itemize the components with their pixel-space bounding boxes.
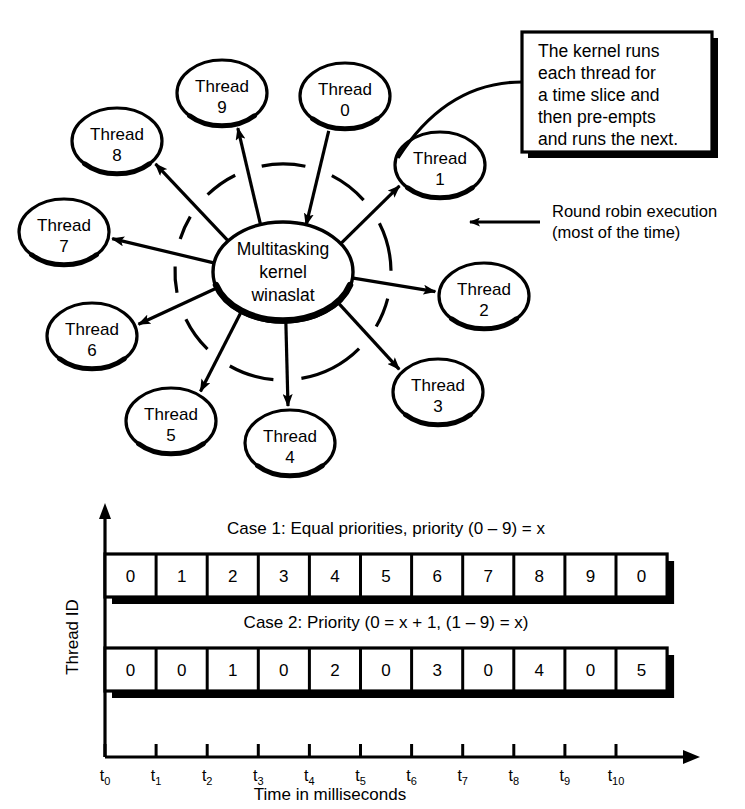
x-tick-label-3: t3: [253, 767, 264, 787]
cell-2-10[interactable]: 5: [637, 661, 646, 680]
thread-label-word-8: Thread: [90, 125, 144, 144]
cell-1-2[interactable]: 2: [228, 567, 237, 586]
thread-node-6[interactable]: Thread6: [47, 303, 137, 369]
thread-label-number-0: 0: [340, 101, 349, 120]
x-axis-arrowhead-icon: [683, 750, 700, 764]
ring-arc-segment: [332, 176, 364, 201]
ring-arc-segment: [180, 217, 190, 239]
thread-label-word-0: Thread: [318, 80, 372, 99]
ring-arc-segment: [208, 175, 236, 195]
x-tick-label-1: t1: [151, 767, 162, 787]
chart-row-2: Case 2: Priority (0 = x + 1, (1 – 9) = x…: [105, 613, 674, 698]
cell-2-8[interactable]: 4: [535, 661, 544, 680]
ring-arc-segment: [186, 319, 208, 349]
chart-rows: Case 1: Equal priorities, priority (0 – …: [105, 519, 674, 698]
callout-line-5: and runs the next.: [538, 129, 678, 149]
thread-node-9[interactable]: Thread9: [177, 60, 267, 126]
thread-label-number-5: 5: [166, 426, 175, 445]
cell-1-0[interactable]: 0: [126, 567, 135, 586]
cell-1-9[interactable]: 9: [586, 567, 595, 586]
x-tick-label-9: t9: [560, 767, 571, 787]
spoke-arrow-thread-5: [200, 312, 241, 392]
callout-line-4: then pre-empts: [538, 107, 656, 127]
y-axis-arrowhead-icon: [99, 503, 111, 519]
thread-node-0[interactable]: Thread0: [300, 63, 390, 129]
thread-label-word-7: Thread: [37, 216, 91, 235]
spoke-arrow-thread-2: [352, 278, 436, 292]
round-robin-line-2: (most of the time): [552, 223, 680, 241]
cell-1-6[interactable]: 6: [432, 567, 441, 586]
spoke-arrow-thread-4: [286, 321, 288, 406]
x-tick-label-2: t2: [202, 767, 213, 787]
thread-label-number-3: 3: [433, 397, 442, 416]
thread-node-5[interactable]: Thread5: [126, 388, 216, 454]
thread-label-word-3: Thread: [411, 376, 465, 395]
thread-label-number-8: 8: [112, 146, 121, 165]
cell-2-5[interactable]: 0: [381, 661, 390, 680]
thread-node-3[interactable]: Thread3: [393, 359, 483, 425]
spoke-arrow-thread-6: [138, 288, 217, 325]
spoke-arrow-thread-0: [306, 131, 329, 225]
chart-row-1: Case 1: Equal priorities, priority (0 – …: [105, 519, 674, 604]
case-title-1: Case 1: Equal priorities, priority (0 – …: [227, 519, 545, 538]
thread-node-7[interactable]: Thread7: [19, 199, 109, 265]
thread-label-word-4: Thread: [263, 427, 317, 446]
thread-node-8[interactable]: Thread8: [72, 108, 162, 174]
thread-label-word-1: Thread: [413, 149, 467, 168]
timing-chart: Thread ID t0t1t2t3t4t5t6t7t8t9t10 Time i…: [63, 503, 700, 804]
cell-2-3[interactable]: 0: [279, 661, 288, 680]
diagram-svg: Thread0Thread1Thread2Thread3Thread4Threa…: [0, 0, 745, 809]
thread-node-2[interactable]: Thread2: [439, 263, 529, 329]
thread-label-number-1: 1: [435, 170, 444, 189]
cell-1-4[interactable]: 4: [330, 567, 339, 586]
thread-label-word-5: Thread: [144, 405, 198, 424]
x-tick-label-10: t10: [608, 767, 625, 787]
cell-2-6[interactable]: 3: [432, 661, 441, 680]
cell-2-7[interactable]: 0: [484, 661, 493, 680]
spoke-arrow-thread-8: [155, 164, 228, 241]
thread-label-number-6: 6: [87, 341, 96, 360]
cell-1-1[interactable]: 1: [177, 567, 186, 586]
thread-label-number-7: 7: [59, 237, 68, 256]
x-tick-label-8: t8: [509, 767, 520, 787]
ring-arc-segment: [230, 366, 274, 380]
thread-label-word-2: Thread: [457, 280, 511, 299]
y-axis: Thread ID: [63, 503, 111, 757]
kernel-line-1: Multitasking: [237, 239, 329, 259]
y-axis-title: Thread ID: [63, 599, 82, 675]
cell-1-5[interactable]: 5: [381, 567, 390, 586]
ring-arc-segment: [376, 299, 388, 327]
thread-node-4[interactable]: Thread4: [245, 410, 335, 476]
ring-arc-segment: [301, 349, 359, 379]
cell-1-8[interactable]: 8: [535, 567, 544, 586]
cell-2-4[interactable]: 2: [330, 661, 339, 680]
thread-label-number-2: 2: [479, 301, 488, 320]
cell-2-9[interactable]: 0: [586, 661, 595, 680]
cell-2-1[interactable]: 0: [177, 661, 186, 680]
cell-2-2[interactable]: 1: [228, 661, 237, 680]
x-tick-label-0: t0: [100, 767, 111, 787]
x-tick-label-5: t5: [355, 767, 366, 787]
thread-label-number-4: 4: [285, 448, 294, 467]
kernel-line-2: kernel: [259, 262, 307, 282]
cell-2-0[interactable]: 0: [126, 661, 135, 680]
round-robin-note: Round robin execution (most of the time): [470, 202, 717, 241]
ring-arc-segment: [175, 267, 177, 293]
spoke-arrow-thread-7: [112, 239, 215, 263]
x-axis-ticks: t0t1t2t3t4t5t6t7t8t9t10: [100, 744, 625, 787]
callout-line-2: each thread for: [538, 63, 656, 83]
x-axis-title: Time in milliseconds: [254, 785, 406, 804]
ring-arc-segment: [379, 223, 391, 270]
kernel-node[interactable]: Multitasking kernel winaslat: [213, 222, 353, 322]
callout-line-1: The kernel runs: [538, 41, 660, 61]
thread-label-word-6: Thread: [65, 320, 119, 339]
callout-line-3: a time slice and: [538, 85, 660, 105]
cell-1-3[interactable]: 3: [279, 567, 288, 586]
spoke-arrow-thread-9: [238, 128, 261, 225]
ring-arc-segment: [262, 164, 306, 166]
thread-label-word-9: Thread: [195, 77, 249, 96]
cell-1-7[interactable]: 7: [484, 567, 493, 586]
kernel-line-3: winaslat: [250, 285, 314, 305]
thread-label-number-9: 9: [217, 98, 226, 117]
cell-1-10[interactable]: 0: [637, 567, 646, 586]
